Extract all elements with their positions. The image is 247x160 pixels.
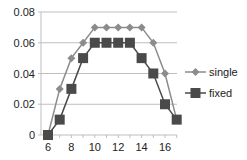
legend-label: fixed bbox=[209, 87, 232, 99]
y-axis-ticks: 00.020.040.060.08 bbox=[14, 6, 35, 141]
square-marker bbox=[137, 53, 147, 63]
y-tick-label: 0.04 bbox=[14, 68, 35, 80]
data-series bbox=[43, 23, 182, 140]
square-marker bbox=[113, 38, 123, 48]
square-marker bbox=[90, 38, 100, 48]
y-tick-label: 0.02 bbox=[14, 98, 35, 110]
series-line bbox=[48, 27, 177, 135]
square-marker bbox=[43, 130, 53, 140]
legend-diamond-icon bbox=[192, 68, 200, 76]
y-tick-label: 0 bbox=[29, 129, 35, 141]
legend-square-icon bbox=[191, 88, 201, 98]
square-marker bbox=[148, 69, 158, 79]
y-tick-label: 0.08 bbox=[14, 6, 35, 18]
x-tick-label: 8 bbox=[68, 141, 74, 153]
x-tick-label: 14 bbox=[135, 141, 147, 153]
legend: singlefixed bbox=[185, 66, 238, 99]
y-tick-label: 0.06 bbox=[14, 37, 35, 49]
x-tick-label: 6 bbox=[45, 141, 51, 153]
diamond-marker bbox=[103, 23, 111, 31]
diamond-marker bbox=[56, 85, 64, 93]
square-marker bbox=[55, 115, 65, 125]
legend-item-fixed: fixed bbox=[185, 87, 232, 99]
square-marker bbox=[160, 99, 170, 109]
diamond-marker bbox=[161, 70, 169, 78]
x-axis-ticks: 6810121416 bbox=[45, 141, 171, 153]
diamond-marker bbox=[126, 23, 134, 31]
legend-item-single: single bbox=[185, 66, 238, 78]
diamond-marker bbox=[114, 23, 122, 31]
line-chart: 00.020.040.060.08 6810121416 singlefixed bbox=[0, 0, 247, 160]
square-marker bbox=[66, 84, 76, 94]
legend-label: single bbox=[209, 66, 238, 78]
x-tick-label: 10 bbox=[89, 141, 101, 153]
x-tick-label: 12 bbox=[112, 141, 124, 153]
square-marker bbox=[78, 53, 88, 63]
square-marker bbox=[102, 38, 112, 48]
x-tick-label: 16 bbox=[159, 141, 171, 153]
square-marker bbox=[172, 115, 182, 125]
series-fixed bbox=[43, 38, 182, 140]
square-marker bbox=[125, 38, 135, 48]
